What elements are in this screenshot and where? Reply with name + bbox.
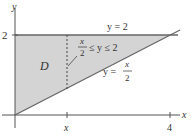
region-diagram: y x 2 x 4 D y = 2 y = x 2 x 2 ≤ y ≤ 2 bbox=[0, 0, 192, 138]
cross-section-label-den: 2 bbox=[80, 48, 85, 58]
curve-label-num: x bbox=[124, 59, 129, 69]
x-axis-label: x bbox=[181, 109, 187, 120]
curve-label-y-equals-x-over-2-lhs: y = bbox=[103, 66, 117, 77]
x-tick-label-4: 4 bbox=[167, 122, 172, 133]
curve-label-y-equals-2: y = 2 bbox=[107, 21, 128, 32]
cross-section-label-num: x bbox=[79, 36, 84, 46]
curve-label-den: 2 bbox=[125, 73, 130, 83]
y-tick-label-2: 2 bbox=[2, 29, 8, 41]
x-tick-label-x: x bbox=[63, 122, 69, 133]
cross-section-label-rest: ≤ y ≤ 2 bbox=[89, 42, 117, 53]
region-label-d: D bbox=[39, 59, 49, 73]
y-axis-label: y bbox=[11, 1, 17, 12]
